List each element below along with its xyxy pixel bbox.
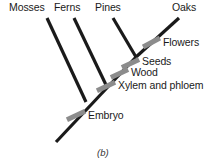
trait-label-wood: Wood xyxy=(131,67,158,78)
taxon-label-mosses: Mosses xyxy=(9,2,45,13)
taxon-label-ferns: Ferns xyxy=(54,2,80,13)
trait-label-embryo: Embryo xyxy=(88,110,124,121)
trait-label-flowers: Flowers xyxy=(163,37,199,48)
taxon-label-pines: Pines xyxy=(95,2,121,13)
trait-label-xylem-and-phloem: Xylem and phloem xyxy=(118,80,203,91)
taxon-label-oaks: Oaks xyxy=(172,2,196,13)
trait-marker-flowers xyxy=(142,36,161,49)
pines-branch xyxy=(113,18,136,57)
ferns-branch xyxy=(74,18,107,87)
panel-caption: (b) xyxy=(97,147,109,158)
trait-marker-wood xyxy=(110,67,129,80)
cladogram-figure: MossesFernsPinesOaks FlowersSeedsWoodXyl… xyxy=(0,0,218,164)
